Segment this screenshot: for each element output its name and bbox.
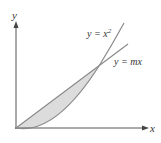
parabola-label-exponent: 2 [108, 27, 112, 35]
region-diagram: y x y = x2 y = mx [0, 0, 161, 143]
x-axis-label: x [149, 122, 155, 134]
parabola-label-base: y = x [86, 28, 108, 39]
y-axis-arrow-icon [14, 21, 19, 28]
parabola-y-x2 [16, 23, 124, 129]
line-y-mx [16, 44, 128, 128]
y-axis-label: y [11, 9, 17, 21]
parabola-label: y = x2 [86, 27, 112, 39]
x-axis-arrow-icon [142, 126, 149, 131]
line-label: y = mx [113, 56, 142, 67]
